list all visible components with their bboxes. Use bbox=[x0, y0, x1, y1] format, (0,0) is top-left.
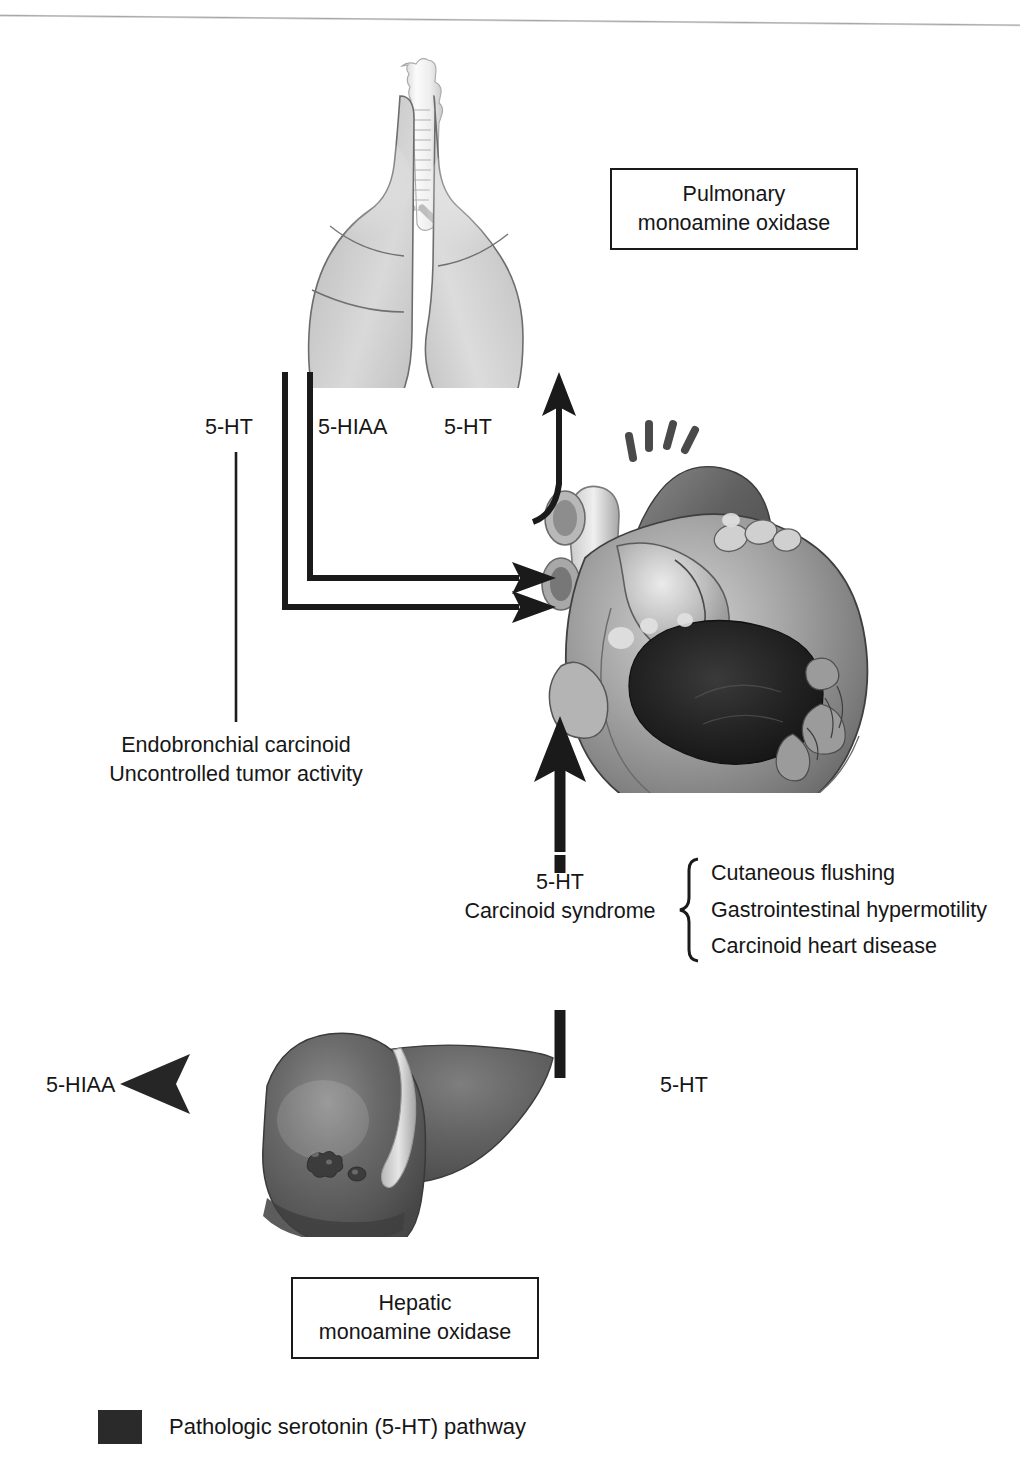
pulmonary-box-line1: Pulmonary bbox=[638, 180, 830, 209]
label-lung-5hiaa: 5-HIAA bbox=[318, 413, 387, 442]
pulmonary-box-line2: monoamine oxidase bbox=[638, 209, 830, 238]
portal-5hiaa-arrowhead bbox=[120, 1054, 190, 1114]
label-liver-in-5ht: 5-HT bbox=[660, 1071, 708, 1100]
hepatic-box-line1: Hepatic bbox=[319, 1289, 511, 1318]
label-carcinoid-syndrome: Carcinoid syndrome bbox=[440, 897, 680, 926]
label-heart-up-5ht: 5-HT bbox=[444, 413, 492, 442]
diagram-canvas: Pulmonary monoamine oxidase Hepatic mono… bbox=[0, 0, 1020, 1480]
label-endobronchial-carcinoid: Endobronchial carcinoid bbox=[86, 731, 386, 760]
label-carcinoid-5ht: 5-HT bbox=[440, 868, 680, 897]
hepatic-monoamine-oxidase-box: Hepatic monoamine oxidase bbox=[291, 1277, 539, 1359]
curly-brace-icon bbox=[676, 856, 702, 964]
label-lung-5ht: 5-HT bbox=[205, 413, 253, 442]
label-liver-out-5hiaa: 5-HIAA bbox=[46, 1071, 115, 1100]
heart-illustration bbox=[525, 398, 940, 793]
legend: Pathologic serotonin (5-HT) pathway bbox=[98, 1410, 526, 1444]
lungs-illustration bbox=[252, 58, 582, 388]
label-uncontrolled-tumor-activity: Uncontrolled tumor activity bbox=[86, 760, 386, 789]
hepatic-box-line2: monoamine oxidase bbox=[319, 1318, 511, 1347]
lung-to-heart-arrow-outer bbox=[285, 372, 519, 607]
legend-swatch-pathologic-pathway bbox=[98, 1410, 142, 1444]
symptom-item-1: Gastrointestinal hypermotility bbox=[711, 896, 987, 925]
pulmonary-monoamine-oxidase-box: Pulmonary monoamine oxidase bbox=[610, 168, 858, 250]
legend-label-pathologic-pathway: Pathologic serotonin (5-HT) pathway bbox=[169, 1414, 526, 1440]
symptom-item-0: Cutaneous flushing bbox=[711, 859, 987, 888]
scan-edge-line bbox=[0, 14, 1020, 27]
symptom-item-2: Carcinoid heart disease bbox=[711, 932, 987, 961]
liver-illustration bbox=[205, 1012, 605, 1237]
lung-to-heart-arrow-inner bbox=[310, 372, 519, 578]
carcinoid-symptoms-group: Cutaneous flushing Gastrointestinal hype… bbox=[676, 855, 1006, 965]
